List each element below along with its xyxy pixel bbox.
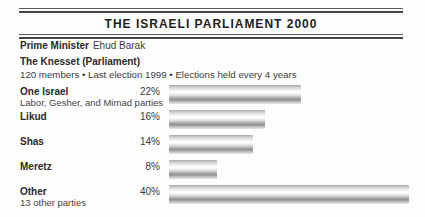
category-sublabel: 13 other parties xyxy=(20,197,86,208)
chart-row: One IsraelLabor, Gesher, and Mimad parti… xyxy=(0,85,425,110)
seat-share-bar-chart: One IsraelLabor, Gesher, and Mimad parti… xyxy=(0,85,425,215)
value-label: 40% xyxy=(100,186,160,197)
value-label: 14% xyxy=(100,136,160,147)
knesset-section: The Knesset (Parliament) 120 members • L… xyxy=(20,56,297,80)
header: THE ISRAELI PARLIAMENT 2000 xyxy=(19,8,403,39)
chart-row: Meretz8% xyxy=(0,160,425,185)
chart-row: Other13 other parties40% xyxy=(0,185,425,210)
value-label: 22% xyxy=(100,86,160,97)
bar xyxy=(169,110,265,129)
chart-row: Shas14% xyxy=(0,135,425,160)
category-label: Shas xyxy=(20,136,44,147)
category-label: Meretz xyxy=(20,161,52,172)
chart-row: Likud16% xyxy=(0,110,425,135)
bar xyxy=(169,85,301,104)
bar xyxy=(169,185,409,204)
bar xyxy=(169,160,217,179)
knesset-heading: The Knesset (Parliament) xyxy=(20,56,297,67)
category-label: One Israel xyxy=(20,86,68,97)
prime-minister-label: Prime Minister xyxy=(20,40,89,51)
knesset-details: 120 members • Last election 1999 • Elect… xyxy=(20,69,297,80)
prime-minister-line: Prime MinisterEhud Barak xyxy=(20,40,145,51)
value-label: 8% xyxy=(100,161,160,172)
category-label: Other xyxy=(20,186,47,197)
value-label: 16% xyxy=(100,111,160,122)
bar xyxy=(169,135,253,154)
israeli-parliament-infographic: THE ISRAELI PARLIAMENT 2000 Prime Minist… xyxy=(0,0,425,217)
prime-minister-name: Ehud Barak xyxy=(93,40,145,51)
header-bottom-rule xyxy=(19,34,403,39)
category-sublabel: Labor, Gesher, and Mimad parties xyxy=(20,97,163,108)
page-title: THE ISRAELI PARLIAMENT 2000 xyxy=(19,13,403,34)
category-label: Likud xyxy=(20,111,47,122)
